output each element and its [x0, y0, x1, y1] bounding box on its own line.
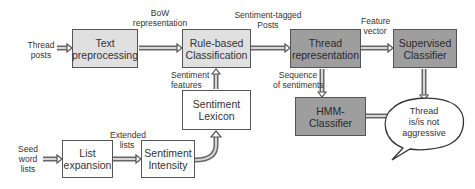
- seed-word-lists-label: Seed word lists: [16, 144, 40, 174]
- hmm-classifier-box: HMM-Classifier: [295, 97, 366, 136]
- extended-line1: Extended: [110, 130, 144, 140]
- seed-line3: lists: [16, 164, 40, 174]
- sentiment-intensity-label: Sentiment Intensity: [142, 147, 194, 171]
- thread-representation-label: Thread representation: [291, 37, 360, 61]
- text-preprocessing-label: Text preprocessing: [72, 37, 138, 61]
- sentiment-features-label: Sentiment features: [171, 70, 213, 90]
- bubble-line3: aggressive: [397, 128, 451, 139]
- bubble-line1: Thread: [397, 106, 451, 117]
- seed-line2: word: [16, 154, 40, 164]
- thread-posts-label: Thread posts: [26, 40, 56, 60]
- sequence-line1: Sequence: [273, 70, 323, 80]
- rule-based-classification-box: Rule-based Classification: [182, 29, 251, 68]
- thread-representation-box: Thread representation: [290, 29, 361, 68]
- list-expansion-box: List expansion: [62, 140, 113, 178]
- list-expansion-label: List expansion: [63, 147, 112, 171]
- supervised-classifier-label: Supervised Classifier: [394, 37, 456, 61]
- feature-vector-line1: Feature: [361, 16, 389, 26]
- sentiment-lexicon-box: Sentiment Lexicon: [182, 90, 251, 130]
- text-preprocessing-box: Text preprocessing: [72, 29, 138, 68]
- sentiment-features-line1: Sentiment: [171, 70, 213, 80]
- bow-line1: BoW: [132, 8, 188, 18]
- seed-line1: Seed: [16, 144, 40, 154]
- sentiment-tagged-label: Sentiment-tagged Posts: [232, 10, 304, 30]
- bubble-line2: is/is not: [397, 117, 451, 128]
- rule-based-classification-label: Rule-based Classification: [183, 37, 250, 61]
- bow-line2: representation: [132, 18, 188, 28]
- output-bubble-text: Thread is/is not aggressive: [397, 106, 451, 139]
- sequence-label: Sequence of sentiments: [273, 70, 323, 90]
- thread-posts-line1: Thread: [26, 40, 56, 50]
- supervised-classifier-box: Supervised Classifier: [393, 29, 457, 68]
- hmm-classifier-label: HMM-Classifier: [296, 105, 365, 129]
- bow-label: BoW representation: [132, 8, 188, 28]
- sentiment-lexicon-label: Sentiment Lexicon: [183, 98, 250, 122]
- feature-vector-line2: vector: [361, 26, 389, 36]
- sentiment-tagged-line1: Sentiment-tagged: [232, 10, 304, 20]
- extended-line2: lists: [110, 140, 144, 150]
- feature-vector-label: Feature vector: [361, 16, 389, 36]
- thread-posts-line2: posts: [26, 50, 56, 60]
- extended-lists-label: Extended lists: [110, 130, 144, 150]
- sequence-line2: of sentiments: [273, 80, 323, 90]
- sentiment-tagged-line2: Posts: [232, 20, 304, 30]
- sentiment-intensity-box: Sentiment Intensity: [141, 140, 195, 178]
- sentiment-features-line2: features: [171, 80, 213, 90]
